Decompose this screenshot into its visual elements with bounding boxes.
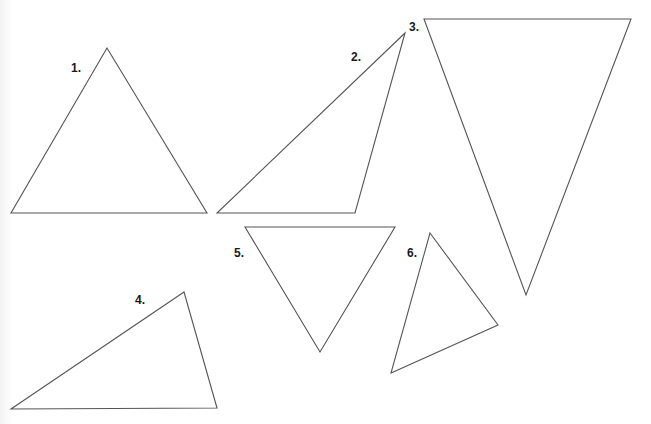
triangle-5-label: 5. — [234, 247, 244, 259]
triangles-drawing — [0, 0, 651, 424]
triangle-2-label: 2. — [351, 51, 361, 63]
triangle-4-label: 4. — [135, 294, 145, 306]
triangle-1-label: 1. — [71, 62, 81, 74]
triangle-4 — [11, 292, 217, 409]
triangle-1 — [11, 48, 207, 213]
triangle-2 — [217, 33, 405, 213]
triangle-worksheet: 1. 2. 3. 4. 5. 6. — [0, 0, 651, 424]
triangle-5 — [245, 227, 395, 352]
triangle-3-label: 3. — [409, 21, 419, 33]
triangle-3 — [424, 19, 631, 295]
triangle-6-label: 6. — [407, 247, 417, 259]
